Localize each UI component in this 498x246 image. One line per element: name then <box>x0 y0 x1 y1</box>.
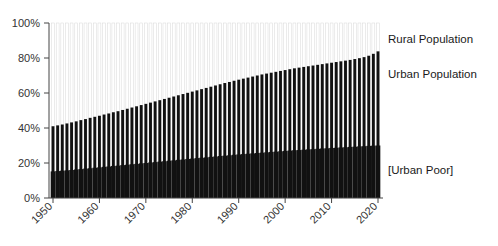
bar-segment-urban-poor <box>352 147 357 198</box>
bar-segment-urban-poor <box>195 158 200 198</box>
bar-segment-urban-poor <box>134 164 139 198</box>
bar-segment-urban-poor <box>278 151 283 198</box>
bar-segment-urban-poor <box>83 169 88 198</box>
bar-segment-urban-poor <box>171 160 176 198</box>
bar-segment-urban-poor <box>199 158 204 198</box>
bar-segment-urban-poor <box>329 148 334 198</box>
bar-segment-urban-poor <box>348 147 353 198</box>
bar-segment-urban-poor <box>315 149 320 198</box>
bar-segment-urban-poor <box>74 169 79 198</box>
bar-segment-urban-poor <box>292 150 297 198</box>
y-tick-label: 60% <box>18 87 40 99</box>
bar-segment-urban-poor <box>167 161 172 198</box>
bar-segment-urban-poor <box>255 153 260 198</box>
bar-segment-urban-poor <box>204 157 209 198</box>
y-tick-label: 40% <box>18 122 40 134</box>
bar-segment-urban-poor <box>102 167 107 198</box>
bar-segment-urban-poor <box>181 160 186 199</box>
bar-segment-urban-poor <box>287 151 292 198</box>
x-axis-tick-labels: 19501960197019801990200020102020 <box>29 198 380 226</box>
bar-segment-urban-poor <box>250 153 255 198</box>
y-axis-tick-labels: 0%20%40%60%80%100% <box>12 17 49 204</box>
bar-segment-urban-poor <box>153 162 158 198</box>
bar-segment-urban-poor <box>227 155 232 198</box>
bar-segment-urban-poor <box>116 166 121 198</box>
bar-segment-urban-poor <box>218 156 223 198</box>
bar-segment-urban-poor <box>232 155 237 198</box>
y-tick-label: 20% <box>18 157 40 169</box>
bar-segment-urban-poor <box>92 168 97 198</box>
chart-figure: 0%20%40%60%80%100% 195019601970198019902… <box>0 0 498 246</box>
bar-segment-urban-poor <box>334 148 339 198</box>
legend-label-urban-population: Urban Population <box>388 68 477 80</box>
bar-segment-urban-poor <box>222 156 227 198</box>
bar-segment-urban-poor <box>79 169 84 198</box>
legend-label-rural-population: Rural Population <box>388 33 473 45</box>
bar-segment-urban-poor <box>51 171 56 198</box>
bar-segment-urban-poor <box>130 164 135 198</box>
y-tick-label: 0% <box>24 192 40 204</box>
bar-segment-urban-poor <box>139 163 144 198</box>
stacked-bar-chart: 0%20%40%60%80%100% 195019601970198019902… <box>0 0 498 246</box>
legend-label-urban-poor: [Urban Poor] <box>388 164 453 176</box>
x-tick-label: 2010 <box>307 200 333 226</box>
y-tick-label: 80% <box>18 52 40 64</box>
bar-segment-urban-poor <box>301 150 306 198</box>
bar-segment-urban-poor <box>176 160 181 198</box>
bars-group <box>51 23 381 198</box>
bar-segment-urban-poor <box>343 147 348 198</box>
bar-segment-urban-poor <box>162 161 167 198</box>
bar-segment-urban-poor <box>185 159 190 198</box>
x-tick-label: 1960 <box>75 200 101 226</box>
bar-segment-urban-poor <box>190 159 195 198</box>
bar-segment-urban-poor <box>144 163 149 198</box>
bar-segment-urban-poor <box>269 152 274 198</box>
bar-segment-urban-poor <box>246 154 251 198</box>
bar-segment-urban-poor <box>264 152 269 198</box>
x-tick-label: 1970 <box>121 200 147 226</box>
bar-segment-urban-poor <box>97 167 102 198</box>
x-tick-label: 1990 <box>214 200 240 226</box>
x-tick-label: 1980 <box>168 200 194 226</box>
bar-segment-urban-poor <box>60 171 65 198</box>
bar-segment-urban-poor <box>111 166 116 198</box>
bar-segment-urban-poor <box>148 162 153 198</box>
bar-segment-urban-poor <box>274 152 279 198</box>
bar-segment-urban-poor <box>283 151 288 198</box>
bar-segment-urban-poor <box>260 153 265 198</box>
x-tick-label: 2020 <box>354 200 380 226</box>
bar-segment-urban-poor <box>297 150 302 198</box>
bar-segment-urban-poor <box>69 170 74 198</box>
bar-segment-urban-poor <box>311 149 316 198</box>
bar-segment-urban-poor <box>357 146 362 198</box>
bar-segment-urban-poor <box>157 162 162 198</box>
bar-segment-urban-poor <box>306 149 311 198</box>
bar-segment-urban-poor <box>241 154 246 198</box>
bar-segment-urban-poor <box>320 148 325 198</box>
legend-annotations: Rural PopulationUrban Population[Urban P… <box>388 33 477 176</box>
bar-segment-urban-poor <box>236 154 241 198</box>
bar-segment-urban-poor <box>65 170 70 198</box>
bar-segment-urban-poor <box>371 146 376 198</box>
bar-segment-urban-poor <box>366 146 371 198</box>
x-tick-label: 2000 <box>261 200 287 226</box>
bar-segment-urban-poor <box>55 171 60 198</box>
bar-segment-urban-poor <box>120 165 125 198</box>
bar-segment-urban-poor <box>88 168 93 198</box>
y-tick-label: 100% <box>12 17 40 29</box>
bar-segment-urban-poor <box>209 157 214 198</box>
bar-segment-urban-poor <box>362 146 367 198</box>
bar-segment-urban-poor <box>125 165 130 198</box>
bar-segment-urban-poor <box>339 147 344 198</box>
bar-segment-urban-poor <box>325 148 330 198</box>
bar-segment-urban-poor <box>376 146 381 199</box>
bar-segment-urban-poor <box>106 167 111 199</box>
bar-segment-urban-poor <box>213 157 218 198</box>
